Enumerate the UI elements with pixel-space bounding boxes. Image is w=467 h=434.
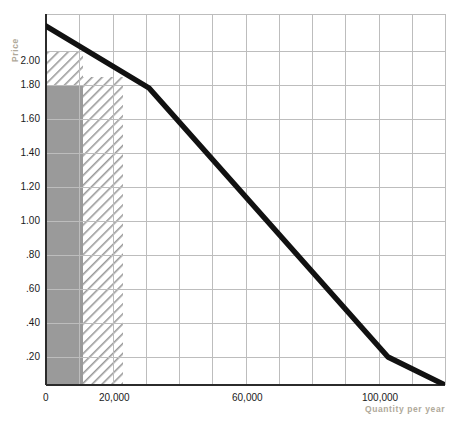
- additional-quantity-hatch-block: [83, 77, 123, 385]
- y-tick-label-1-80: 1.80: [8, 79, 40, 90]
- expenditure-solid-block: [46, 85, 83, 385]
- consumer-surplus-hatch-cap: [46, 51, 83, 85]
- y-tick-label-0-20: .20: [8, 351, 40, 362]
- x-tick-label-0: 0: [43, 392, 49, 403]
- y-tick-label-1-40: 1.40: [8, 147, 40, 158]
- x-tick-label-60000: 60,000: [232, 392, 263, 403]
- x-tick-label-100000: 100,000: [362, 392, 398, 403]
- y-tick-label-0-40: .40: [8, 317, 40, 328]
- x-axis-label: Quantity per year: [365, 404, 445, 414]
- y-tick-label-0-60: .60: [8, 283, 40, 294]
- y-tick-label-1-60: 1.60: [8, 113, 40, 124]
- y-tick-label-1-20: 1.20: [8, 181, 40, 192]
- y-tick-label-0-80: .80: [8, 249, 40, 260]
- shaded-regions: [46, 51, 123, 385]
- y-tick-label-2-00: 2.00: [8, 55, 40, 66]
- demand-curve-chart: [0, 0, 467, 434]
- x-tick-label-20000: 20,000: [99, 392, 130, 403]
- y-tick-label-1-00: 1.00: [8, 215, 40, 226]
